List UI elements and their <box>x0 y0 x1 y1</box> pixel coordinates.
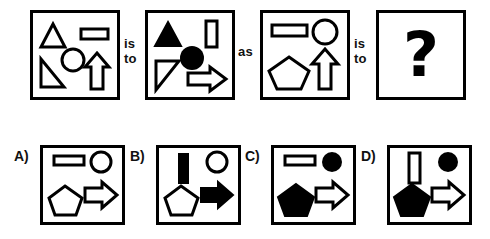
connector-is-to-2: is to <box>354 36 367 66</box>
circle-solid-icon <box>438 152 458 172</box>
pentagon-outline-icon <box>165 186 198 215</box>
option-b-svg <box>159 148 238 222</box>
pentagon-solid-icon <box>278 184 314 216</box>
arrow-up-outline-icon <box>85 53 109 89</box>
rectangle-vertical-outline-icon <box>409 153 420 183</box>
question-mark: ? <box>379 13 463 97</box>
rectangle-vertical-outline-icon <box>206 21 217 47</box>
pentagon-outline-icon <box>49 186 82 215</box>
connector-is-to-1: is to <box>124 36 137 66</box>
right-triangle-outline-icon <box>156 61 179 90</box>
circle-outline-icon <box>62 49 84 71</box>
answer-panel[interactable]: ? <box>376 10 466 100</box>
triangle-outline-icon <box>41 24 65 47</box>
circle-solid-icon <box>322 152 342 172</box>
circle-outline-icon <box>207 152 227 172</box>
panel-3-svg <box>263 13 347 97</box>
rectangle-horizontal-outline-icon <box>272 25 307 36</box>
analogy-puzzle: is to as <box>0 0 490 239</box>
option-d-svg <box>390 148 469 222</box>
panel-3-shapes <box>263 13 347 97</box>
arrow-up-outline-icon <box>312 49 338 89</box>
arrow-right-outline-icon <box>188 67 226 91</box>
rectangle-horizontal-outline-icon <box>285 156 315 165</box>
panel-1-shapes <box>33 13 117 97</box>
option-a-label: A) <box>14 149 29 163</box>
panel-2-svg <box>148 13 232 97</box>
option-d-panel[interactable] <box>387 145 472 225</box>
pentagon-outline-icon <box>269 57 309 89</box>
connector-as: as <box>238 44 253 59</box>
circle-outline-icon <box>313 20 337 44</box>
option-c-svg <box>274 148 353 222</box>
arrow-right-outline-icon <box>85 182 117 208</box>
option-b-label: B) <box>130 149 145 163</box>
rectangle-horizontal-outline-icon <box>54 156 84 165</box>
right-triangle-outline-icon <box>41 59 64 87</box>
panel-1-svg <box>33 13 117 97</box>
rectangle-horizontal-outline-icon <box>81 29 108 39</box>
option-a-panel[interactable] <box>40 145 125 225</box>
source-panel-1[interactable] <box>30 10 120 100</box>
arrow-right-outline-icon <box>316 182 348 208</box>
circle-solid-icon <box>180 46 204 70</box>
pentagon-solid-icon <box>394 184 430 216</box>
target-panel-1[interactable] <box>145 10 235 100</box>
circle-outline-icon <box>91 152 111 172</box>
option-a-svg <box>43 148 122 222</box>
option-c-label: C) <box>245 149 260 163</box>
option-c-panel[interactable] <box>271 145 356 225</box>
arrow-right-outline-icon <box>432 182 464 208</box>
arrow-right-solid-icon <box>201 182 233 208</box>
option-d-label: D) <box>361 149 376 163</box>
triangle-solid-icon <box>155 22 181 46</box>
rectangle-vertical-solid-icon <box>178 153 189 184</box>
panel-2-shapes <box>148 13 232 97</box>
option-b-panel[interactable] <box>156 145 241 225</box>
source-panel-2[interactable] <box>260 10 350 100</box>
